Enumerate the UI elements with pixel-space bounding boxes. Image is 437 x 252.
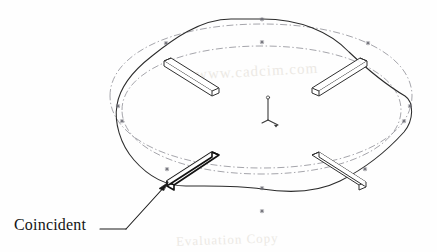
plate-edge bbox=[319, 61, 367, 96]
construction-geometry bbox=[110, 24, 412, 174]
point-marker[interactable] bbox=[363, 167, 367, 171]
point-marker[interactable] bbox=[164, 41, 168, 45]
point-marker[interactable] bbox=[120, 119, 124, 123]
construction-ellipse-upper[interactable] bbox=[110, 24, 412, 168]
cad-viewport[interactable]: www.cadcim.com Evaluation Copy bbox=[0, 0, 437, 252]
plate-lower-left[interactable] bbox=[167, 152, 219, 190]
point-marker[interactable] bbox=[260, 17, 264, 21]
coincident-annotation-label[interactable]: Coincident bbox=[14, 216, 86, 234]
profile-spline-group bbox=[116, 19, 411, 191]
plate-upper-right[interactable] bbox=[312, 58, 367, 96]
plate-upper-left[interactable] bbox=[164, 58, 219, 96]
x-axis-arrow-icon bbox=[274, 125, 278, 128]
origin-triad[interactable] bbox=[262, 96, 278, 128]
plate-edge bbox=[319, 152, 366, 187]
point-marker[interactable] bbox=[260, 40, 264, 44]
sketch-point-markers bbox=[116, 17, 412, 213]
z-axis-icon bbox=[262, 120, 268, 123]
point-marker[interactable] bbox=[366, 41, 370, 45]
plate-edge bbox=[167, 185, 174, 190]
plate-face bbox=[312, 58, 367, 91]
point-marker[interactable] bbox=[116, 104, 120, 108]
profile-spline[interactable] bbox=[116, 19, 411, 191]
point-marker[interactable] bbox=[165, 167, 169, 171]
point-marker[interactable] bbox=[260, 186, 264, 190]
point-marker[interactable] bbox=[402, 119, 406, 123]
x-axis-icon bbox=[268, 120, 278, 125]
point-marker[interactable] bbox=[408, 104, 412, 108]
plate-face bbox=[164, 58, 219, 91]
annotation-leader[interactable] bbox=[100, 183, 168, 230]
sketch-drawing[interactable] bbox=[0, 0, 437, 252]
point-marker[interactable] bbox=[260, 209, 264, 213]
leader-diagonal-segment bbox=[126, 185, 166, 229]
plate-edge bbox=[164, 61, 212, 96]
